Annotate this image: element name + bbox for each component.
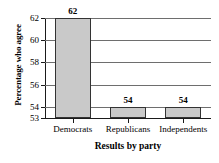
bar-value-label: 54 [179,96,188,105]
y-tick-label: 58 [30,58,39,67]
plot-area: 535456586062 625454 DemocratsRepublicans… [45,18,211,118]
y-tick-label: 56 [30,80,39,89]
y-axis-title: Percentage who agree [13,5,23,125]
y-tick-mark [41,85,45,86]
y-tick-mark [41,62,45,63]
bar-value-label: 54 [124,96,133,105]
x-tick-mark [128,118,129,123]
bar [55,18,91,118]
x-tick-label: Independents [159,125,207,134]
y-tick-mark [41,118,45,119]
x-tick-mark [73,118,74,123]
y-tick-label: 54 [30,102,39,111]
x-axis-title: Results by party [45,141,211,151]
x-tick-label: Republicans [106,125,151,134]
x-tick-mark [183,118,184,123]
y-tick-label: 62 [30,14,39,23]
bar [165,107,201,118]
y-axis-line [45,18,46,118]
bar-value-label: 62 [68,7,77,16]
x-tick-label: Democrats [53,125,92,134]
y-tick-label: 53 [30,114,39,123]
bar-chart: Percentage who agree 535456586062 625454… [0,0,219,163]
y-tick-mark [41,18,45,19]
y-tick-mark [41,40,45,41]
y-tick-label: 60 [30,36,39,45]
bar [110,107,146,118]
y-tick-mark [41,107,45,108]
